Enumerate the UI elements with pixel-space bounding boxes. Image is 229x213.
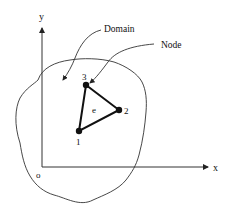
- x-axis-label: x: [213, 162, 218, 173]
- origin-label: o: [36, 170, 41, 180]
- diagram-svg: y x o Domain Node e 1 2 3: [0, 0, 229, 213]
- node-1-label: 1: [76, 137, 81, 147]
- node-callout-label: Node: [161, 40, 182, 50]
- y-axis-label: y: [39, 11, 44, 22]
- node-3-dot: [83, 82, 89, 88]
- fem-domain-diagram: y x o Domain Node e 1 2 3: [0, 0, 229, 213]
- domain-callout-label: Domain: [104, 24, 135, 34]
- node-2-dot: [116, 107, 122, 113]
- node-leader-arrow: [90, 44, 154, 83]
- node-2-label: 2: [124, 106, 129, 116]
- element-label: e: [92, 105, 96, 115]
- node-1-dot: [76, 128, 82, 134]
- triangle-element: [79, 85, 119, 131]
- node-3-label: 3: [82, 72, 87, 82]
